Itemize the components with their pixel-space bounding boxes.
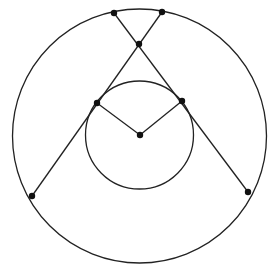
- point-outer-bottom-left: [29, 193, 35, 199]
- segment-inner-left-to-center: [97, 103, 140, 135]
- point-outer-bottom-right: [245, 189, 251, 195]
- point-top-left: [111, 10, 117, 16]
- point-inner-left: [94, 100, 100, 106]
- segment-inner-right-to-center: [140, 101, 182, 135]
- geometry-diagram: [0, 0, 279, 274]
- point-crossing: [136, 41, 142, 47]
- point-top-right: [159, 9, 165, 15]
- point-center: [137, 132, 143, 138]
- point-inner-right: [179, 98, 185, 104]
